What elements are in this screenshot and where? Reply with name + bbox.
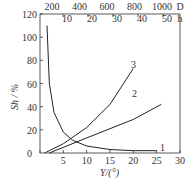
axes	[40, 14, 180, 153]
svg-text:D: D	[176, 1, 183, 12]
curve-label-1: 1	[160, 142, 165, 153]
curve-2	[49, 104, 161, 153]
svg-text:25: 25	[152, 155, 162, 166]
svg-text:40: 40	[27, 102, 37, 113]
curve-label-2: 2	[132, 88, 137, 99]
svg-text:80: 80	[27, 55, 37, 66]
svg-text:0: 0	[27, 148, 32, 159]
chart: 5101520253002040608010012020040060080010…	[0, 0, 189, 188]
svg-text:50: 50	[162, 13, 172, 24]
svg-text:100: 100	[22, 32, 37, 43]
svg-text:30: 30	[175, 155, 185, 166]
svg-text:40: 40	[137, 13, 147, 24]
svg-text:600: 600	[100, 1, 115, 12]
curve-3	[45, 68, 134, 153]
svg-text:60: 60	[27, 79, 37, 90]
curves	[45, 26, 162, 153]
svg-text:400: 400	[72, 1, 87, 12]
svg-text:1000: 1000	[152, 1, 172, 12]
svg-text:10: 10	[62, 13, 72, 24]
svg-text:30: 30	[112, 13, 122, 24]
svg-text:200: 200	[45, 1, 60, 12]
x-axis-label: Y/(°)	[100, 167, 120, 179]
curve-label-3: 3	[131, 59, 136, 70]
svg-text:h: h	[178, 13, 183, 24]
svg-text:20: 20	[87, 13, 97, 24]
svg-text:120: 120	[22, 9, 37, 20]
svg-text:5: 5	[61, 155, 66, 166]
y-axis-label: Sh / %	[9, 84, 20, 110]
svg-text:20: 20	[27, 125, 37, 136]
svg-text:10: 10	[82, 155, 92, 166]
svg-text:15: 15	[105, 155, 115, 166]
svg-text:20: 20	[128, 155, 138, 166]
svg-text:800: 800	[127, 1, 142, 12]
